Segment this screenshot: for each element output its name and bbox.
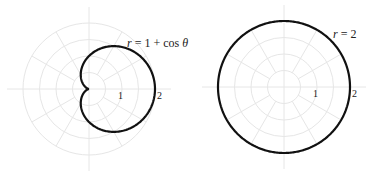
equation-label: r = 2 bbox=[333, 27, 356, 41]
cardioid-polar-plot: 1 2 r = 1 + cos θ bbox=[7, 7, 188, 171]
tick-label-1: 1 bbox=[313, 88, 318, 99]
tick-label-2: 2 bbox=[157, 90, 162, 101]
circle-polar-plot: 1 2 r = 2 bbox=[202, 5, 366, 169]
equation-label: r = 1 + cos θ bbox=[127, 36, 188, 50]
tick-label-1: 1 bbox=[118, 90, 123, 101]
polar-plots-canvas: 1 2 r = 1 + cos θ 1 2 r = 2 bbox=[0, 0, 369, 171]
polar-plots-figure: 1 2 r = 1 + cos θ 1 2 r = 2 bbox=[0, 0, 369, 171]
tick-label-2: 2 bbox=[352, 88, 357, 99]
